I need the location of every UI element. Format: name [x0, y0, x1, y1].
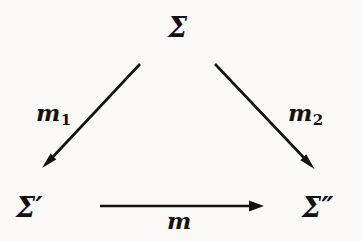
edge-label-m2-base: m: [288, 99, 312, 126]
edge-label-m: m: [167, 209, 191, 232]
edge-label-m1-subscript: 1: [61, 111, 71, 129]
node-sigma: Σ: [168, 14, 188, 41]
edge-label-m1: m1: [36, 101, 71, 124]
edge-label-m2-subscript: 2: [313, 111, 323, 129]
edge-label-m2: m2: [288, 101, 323, 124]
node-sigma-double-prime: Σ″: [302, 194, 334, 221]
node-sigma-prime: Σ′: [16, 194, 43, 221]
edge-label-m1-base: m: [36, 99, 60, 126]
diagram-canvas: Σ Σ′ Σ″ m1 m2 m: [0, 0, 362, 241]
edge-label-m-base: m: [167, 207, 191, 234]
